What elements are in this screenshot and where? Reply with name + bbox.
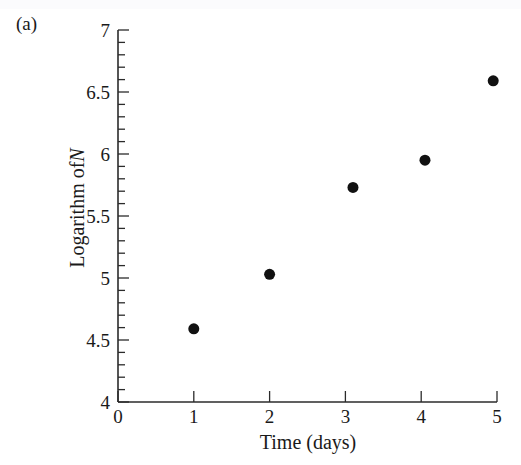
y-tick-label: 6.5 <box>48 83 110 102</box>
y-tick-label: 4.5 <box>48 331 110 350</box>
axis-lines <box>118 30 497 402</box>
x-tick-label: 0 <box>98 407 138 426</box>
y-axis-ticks <box>118 30 129 402</box>
y-tick-label: 7 <box>48 21 110 40</box>
data-point <box>264 269 275 280</box>
y-tick-label: 6 <box>48 145 110 164</box>
data-point <box>188 323 199 334</box>
data-point <box>419 155 430 166</box>
y-tick-label: 5 <box>48 269 110 288</box>
x-tick-label: 2 <box>250 407 290 426</box>
data-point-group <box>188 75 498 334</box>
data-point <box>488 75 499 86</box>
x-tick-label: 1 <box>174 407 214 426</box>
x-axis-ticks <box>118 391 497 402</box>
x-tick-label: 4 <box>401 407 441 426</box>
figure-panel-a: (a) Logarithm ofN Time (days) 44.555.566… <box>0 0 521 465</box>
y-tick-label: 5.5 <box>48 207 110 226</box>
data-point <box>347 182 358 193</box>
x-tick-label: 5 <box>477 407 517 426</box>
x-tick-label: 3 <box>325 407 365 426</box>
